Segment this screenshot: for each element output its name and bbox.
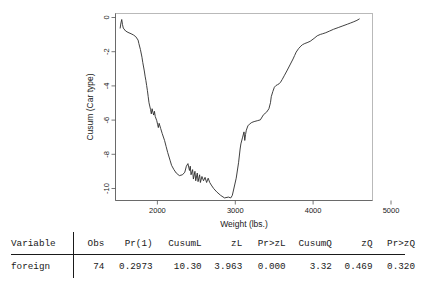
- cell-cusumq: 3.32: [292, 254, 338, 278]
- cell-obs: 74: [77, 254, 111, 278]
- cell-zl: 3.963: [208, 254, 249, 278]
- header-obs: Obs: [77, 232, 111, 254]
- header-pr-zl: Pr>zL: [248, 232, 291, 254]
- cusum-plot-page: 0 -2 -4 -6 -8 -10 2000 3000 4000 5000: [0, 0, 421, 290]
- x-axis-title: Weight (lbs.): [220, 219, 268, 229]
- cusum-series-line: [120, 19, 359, 198]
- y-tick-label-0: 0: [102, 15, 111, 19]
- table-header-row: Variable Obs Pr(1) CusumL zL Pr>zL Cusum…: [0, 232, 421, 254]
- y-tick-label-minus2: -2: [102, 48, 111, 55]
- cusum-chart: 0 -2 -4 -6 -8 -10 2000 3000 4000 5000: [0, 0, 421, 232]
- header-variable: Variable: [0, 232, 71, 254]
- y-tick-label-minus10: -10: [102, 183, 111, 194]
- cusum-stats-table: Variable Obs Pr(1) CusumL zL Pr>zL Cusum…: [0, 232, 421, 278]
- y-axis-tick-labels: 0 -2 -4 -6 -8 -10: [102, 15, 111, 194]
- header-zq: zQ: [338, 232, 379, 254]
- header-cusumq: CusumQ: [292, 232, 338, 254]
- table-row: foreign 74 0.2973 10.30 3.963 0.000 3.32…: [0, 254, 421, 278]
- x-tick-label-2000: 2000: [149, 206, 166, 215]
- vertical-rule: [73, 254, 74, 278]
- y-tick-label-minus4: -4: [102, 83, 111, 90]
- header-cusuml: CusumL: [159, 232, 208, 254]
- header-pr-zq: Pr>zQ: [379, 232, 421, 254]
- plot-frame: [116, 14, 373, 201]
- chart-canvas: 0 -2 -4 -6 -8 -10 2000 3000 4000 5000: [0, 0, 421, 232]
- cell-pr1: 0.2973: [110, 254, 158, 278]
- cell-zq: 0.469: [338, 254, 379, 278]
- header-zl: zL: [208, 232, 249, 254]
- x-tick-label-4000: 4000: [305, 206, 322, 215]
- cell-pr-zl: 0.000: [248, 254, 291, 278]
- x-tick-label-5000: 5000: [383, 206, 400, 215]
- y-axis-title: Cusum (Car type): [85, 73, 95, 140]
- vertical-rule: [73, 232, 74, 254]
- x-axis-tick-labels: 2000 3000 4000 5000: [149, 206, 399, 215]
- cell-variable: foreign: [0, 254, 71, 278]
- y-tick-label-minus6: -6: [102, 117, 111, 124]
- x-tick-label-3000: 3000: [227, 206, 244, 215]
- header-pr1: Pr(1): [110, 232, 158, 254]
- cell-cusuml: 10.30: [159, 254, 208, 278]
- x-axis-ticks: [157, 201, 391, 205]
- y-tick-label-minus8: -8: [102, 151, 111, 158]
- cell-pr-zq: 0.320: [379, 254, 421, 278]
- y-axis-ticks: [112, 18, 116, 189]
